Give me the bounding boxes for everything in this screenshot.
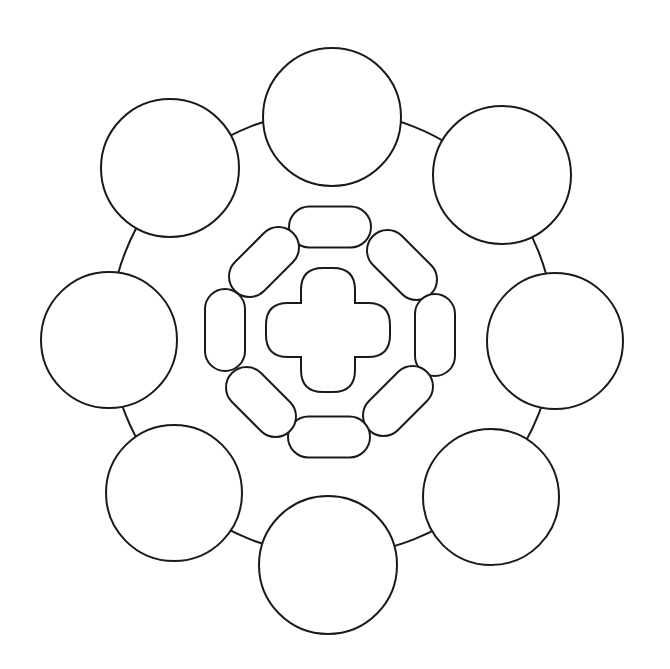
pill-right <box>415 294 455 376</box>
outer-circle-top-right <box>433 106 571 244</box>
outer-circle-bottom <box>259 496 397 634</box>
pill-bottom <box>288 417 370 458</box>
outer-circle-right <box>487 273 623 409</box>
center-cross <box>266 268 390 392</box>
outer-circle-bottom-left <box>106 425 242 561</box>
outer-circle-left <box>41 272 177 408</box>
outer-circle-bottom-right <box>423 429 559 565</box>
outer-circle-top <box>263 48 401 186</box>
cross-shape <box>266 268 390 392</box>
pill-top <box>289 207 371 248</box>
diagram-canvas <box>0 0 670 669</box>
pill-left <box>205 289 245 371</box>
outer-circle-top-left <box>101 99 239 237</box>
